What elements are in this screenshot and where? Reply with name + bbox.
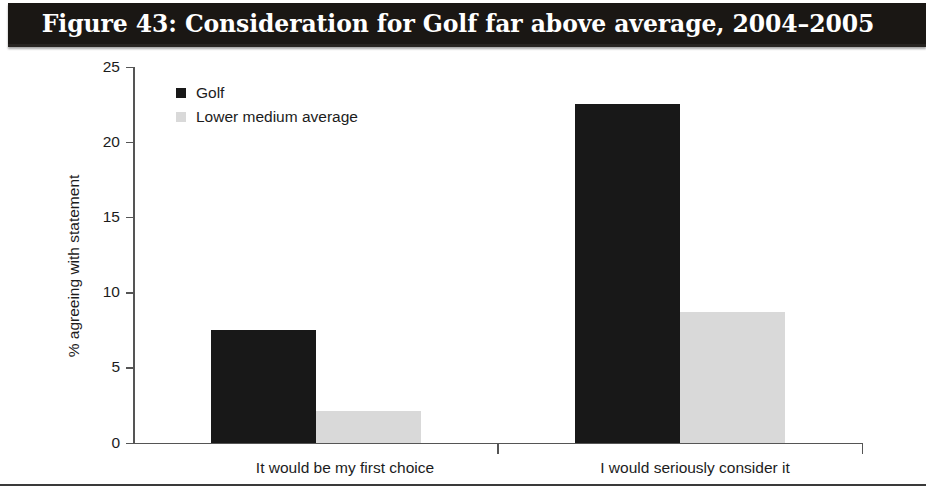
legend-label-golf: Golf	[196, 84, 224, 102]
bar-lower-medium-first-choice	[316, 411, 421, 443]
legend-swatch-golf	[176, 88, 186, 98]
x-category-label-2: I would seriously consider it	[530, 459, 860, 477]
figure-title-banner: Figure 43: Consideration for Golf far ab…	[8, 3, 926, 47]
bar-chart: % agreeing with statement 0 5 10 15 20 2…	[0, 47, 926, 493]
bars-layer	[0, 47, 926, 443]
x-axis-separator-tick	[497, 443, 499, 454]
figure-title: Figure 43: Consideration for Golf far ab…	[8, 10, 908, 38]
legend-entry-lower-medium-average: Lower medium average	[176, 105, 358, 129]
bar-lower-medium-seriously-consider	[680, 312, 785, 443]
x-axis-end-tick	[862, 443, 864, 454]
bar-golf-seriously-consider	[575, 104, 680, 443]
legend-entry-golf: Golf	[176, 81, 358, 105]
bar-golf-first-choice	[211, 330, 316, 443]
x-category-label-1: It would be my first choice	[195, 459, 495, 477]
legend-label-lower-medium-average: Lower medium average	[196, 108, 358, 126]
legend-swatch-lower-medium-average	[176, 112, 186, 122]
bottom-divider-rule	[0, 484, 926, 486]
chart-legend: Golf Lower medium average	[176, 81, 358, 129]
